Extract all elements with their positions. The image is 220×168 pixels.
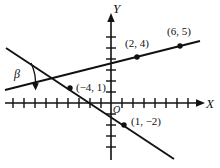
coordinate-plane-diagram: Y X O β (2, 4) (6, 5) (−4, 1) (1, −2)	[0, 0, 220, 168]
data-point-minus4-1	[67, 85, 72, 90]
y-axis	[107, 13, 114, 160]
data-point-1-minus2	[121, 122, 126, 127]
origin-label: O	[113, 105, 120, 115]
y-axis-label: Y	[113, 2, 120, 15]
beta-arrowhead	[32, 83, 39, 91]
point-label-6-5: (6, 5)	[167, 26, 191, 37]
data-point-2-4	[134, 54, 139, 59]
point-label-2-4: (2, 4)	[125, 38, 149, 49]
x-axis-label: X	[206, 97, 214, 110]
point-label-minus4-1: (−4, 1)	[76, 82, 106, 93]
beta-angle-label: β	[14, 68, 20, 80]
x-axis-arrowhead	[196, 99, 205, 106]
data-point-6-5	[177, 43, 182, 48]
point-label-1-minus2: (1, −2)	[131, 116, 161, 127]
